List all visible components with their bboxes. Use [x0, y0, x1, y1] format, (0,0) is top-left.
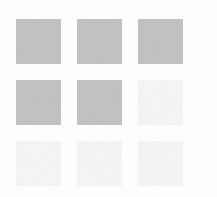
grid-cell-r2-c2 — [77, 80, 122, 125]
grid-cell-r2-c1 — [16, 80, 61, 125]
grid-cell-r3-c1 — [16, 141, 61, 186]
grid-cell-r1-c1 — [16, 19, 61, 64]
grid-cell-r1-c2 — [77, 19, 122, 64]
grid-cell-r3-c2 — [77, 141, 122, 186]
grid-cell-r3-c3 — [138, 141, 183, 186]
grid-cell-r1-c3 — [138, 19, 183, 64]
grid-matrix-figure — [16, 19, 183, 186]
grid-cell-r2-c3 — [138, 80, 183, 125]
